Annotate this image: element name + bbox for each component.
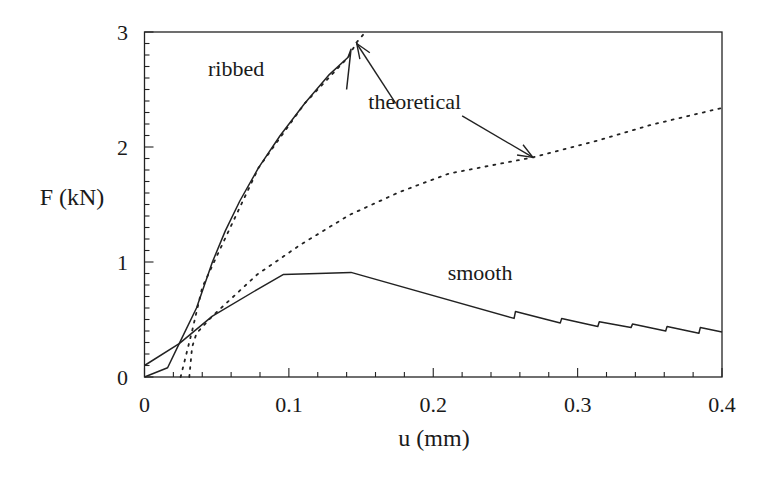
series-ribbed [145, 49, 352, 377]
y-tick-label: 2 [117, 135, 128, 160]
x-tick-label: 0.4 [708, 392, 736, 417]
annotation-smooth: smooth [448, 260, 513, 285]
series-theoretical-smooth [189, 108, 722, 377]
annotations: ribbedtheoreticalsmooth [208, 56, 512, 286]
series-smooth [145, 272, 723, 365]
x-tick-label: 0.2 [420, 392, 448, 417]
x-axis-label: u (mm) [398, 425, 469, 451]
y-tick-label: 3 [117, 20, 128, 45]
x-tick-label: 0.3 [564, 392, 592, 417]
x-tick-label: 0 [139, 392, 150, 417]
series-theoretical-ribbed [181, 32, 366, 377]
y-tick-label: 1 [117, 250, 128, 275]
series-layer [145, 32, 723, 377]
force-displacement-chart: 00.10.20.30.40123 ribbedtheoreticalsmoot… [0, 0, 766, 483]
annotation-theoretical: theoretical [368, 89, 461, 114]
y-axis-label: F (kN) [40, 184, 105, 210]
y-tick-label: 0 [117, 365, 128, 390]
annotation-ribbed: ribbed [208, 56, 264, 81]
arrow-shaft [462, 116, 533, 157]
x-tick-label: 0.1 [275, 392, 303, 417]
